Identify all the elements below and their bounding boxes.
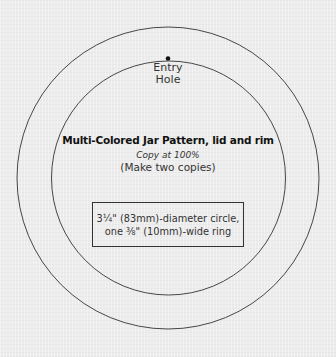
spec-line1: 3¼" (83mm)-diameter circle, — [97, 212, 240, 225]
copies-note: (Make two copies) — [0, 161, 336, 173]
spec-line2: one ⅜" (10mm)-wide ring — [105, 225, 231, 238]
spec-box: 3¼" (83mm)-diameter circle, one ⅜" (10mm… — [92, 202, 244, 247]
copy-instruction: Copy at 100% — [0, 150, 336, 160]
inner-ring-circle — [52, 61, 286, 295]
entry-label-line2: Hole — [148, 74, 188, 86]
entry-hole-label: Entry Hole — [148, 62, 188, 86]
pattern-title: Multi-Colored Jar Pattern, lid and rim — [0, 134, 336, 146]
